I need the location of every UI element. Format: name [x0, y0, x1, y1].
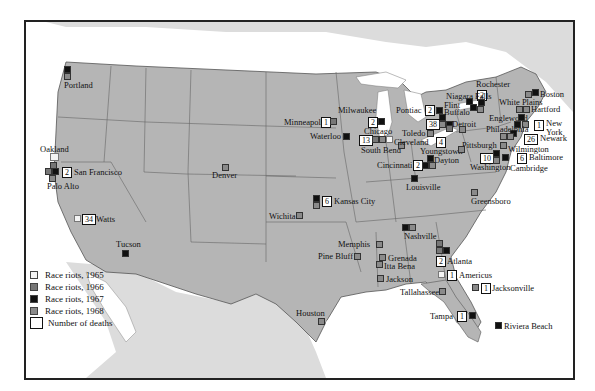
legend-item-1965: Race riots, 1965	[30, 269, 112, 281]
marker-englewood-1967[interactable]	[518, 114, 525, 121]
marker-kc-1968[interactable]	[313, 202, 320, 209]
marker-chicago-1968[interactable]	[379, 136, 386, 143]
marker-pine-bluff-1968[interactable]	[354, 253, 361, 260]
legend-label: Race riots, 1965	[45, 270, 104, 280]
deaths-kc: 6	[322, 196, 332, 207]
city-label-washington: Washington	[470, 163, 510, 172]
city-label-houston: Houston	[296, 309, 325, 318]
marker-jacksonville-1968[interactable]	[472, 284, 479, 291]
city-label-pontiac: Pontiac	[396, 106, 422, 115]
marker-portland-1968[interactable]	[64, 73, 71, 80]
city-label-wichita: Wichita	[269, 212, 296, 221]
deaths-new-york: 1	[534, 120, 544, 131]
marker-wichita-1968[interactable]	[296, 212, 303, 219]
deaths-detroit: 38	[426, 119, 440, 130]
marker-tucson-1967[interactable]	[122, 250, 129, 257]
marker-atlanta-1967[interactable]	[443, 247, 450, 254]
deaths-watts: 34	[82, 214, 96, 225]
legend-item-1967: Race riots, 1967	[30, 293, 112, 305]
deaths-jacksonville: 1	[481, 283, 491, 294]
city-label-tampa: Tampa	[430, 312, 453, 321]
marker-buffalo-1967[interactable]	[470, 104, 477, 111]
marker-chicago-1966[interactable]	[372, 136, 379, 143]
marker-riviera-beach-1967[interactable]	[495, 322, 502, 329]
marker-milwaukee-1967[interactable]	[378, 118, 385, 125]
marker-jackson-1968[interactable]	[377, 275, 384, 282]
marker-waterloo-1967[interactable]	[343, 133, 350, 140]
marker-atlanta-1966b[interactable]	[436, 247, 443, 254]
marker-pittsburgh-1968[interactable]	[458, 146, 465, 153]
marker-kc-1967[interactable]	[313, 195, 320, 202]
legend-label: Race riots, 1967	[45, 294, 104, 304]
deaths-sf: 2	[62, 167, 72, 178]
city-label-jackson: Jackson	[386, 275, 413, 284]
city-label-portland: Portland	[64, 81, 93, 90]
marker-houston-1968[interactable]	[318, 318, 325, 325]
city-label-louisville: Louisville	[406, 183, 440, 192]
marker-portland-1967[interactable]	[64, 66, 71, 73]
swatch-1966-icon	[30, 283, 38, 291]
marker-boston-1967[interactable]	[532, 89, 539, 96]
marker-detroit-1968[interactable]	[439, 121, 446, 128]
marker-grenada-1968[interactable]	[379, 254, 386, 261]
legend-item-deaths: Number of deaths	[30, 317, 112, 329]
marker-sf-1967[interactable]	[52, 168, 59, 175]
marker-philadelphia-1968b[interactable]	[507, 133, 514, 140]
marker-buffalo-1968[interactable]	[477, 106, 484, 113]
marker-white-plains-1968[interactable]	[516, 106, 523, 113]
deaths-tampa: 1	[457, 311, 467, 322]
city-label-buffalo: Buffalo	[444, 108, 470, 117]
legend-label: Number of deaths	[48, 318, 112, 328]
city-label-pine-bluff: Pine Bluff	[318, 252, 353, 261]
swatch-1968-icon	[30, 307, 38, 315]
deaths-box-icon	[30, 317, 43, 329]
marker-louisville-1967[interactable]	[411, 175, 418, 182]
city-label-americus: Americus	[459, 271, 492, 280]
city-label-kansas-city: Kansas City	[334, 197, 375, 206]
marker-minneapolis-1966[interactable]	[330, 118, 337, 125]
marker-chicago-1965[interactable]	[386, 136, 393, 143]
legend: Race riots, 1965 Race riots, 1966 Race r…	[30, 269, 112, 329]
city-label-riviera-beach: Riviera Beach	[504, 322, 552, 331]
legend-label: Race riots, 1966	[45, 282, 104, 292]
marker-memphis-1968[interactable]	[376, 241, 383, 248]
deaths-pontiac: 2	[425, 105, 435, 116]
city-label-hartford: Hartford	[531, 105, 560, 114]
marker-itta-bena-1968[interactable]	[376, 261, 383, 268]
marker-cincinnati-1968[interactable]	[429, 162, 436, 169]
map-frame: Race riots, 1965 Race riots, 1966 Race r…	[24, 20, 575, 380]
marker-atlanta-1966a[interactable]	[436, 240, 443, 247]
city-label-palo-alto: Palo Alto	[47, 182, 79, 191]
city-label-greensboro: Greensboro	[471, 197, 511, 206]
marker-tallahassee-1968[interactable]	[439, 288, 446, 295]
city-label-milwaukee: Milwaukee	[338, 106, 376, 115]
marker-hartford-1968[interactable]	[523, 106, 530, 113]
marker-philadelphia-1968a[interactable]	[500, 133, 507, 140]
marker-watts-1965[interactable]	[74, 215, 81, 222]
city-label-boston: Boston	[540, 90, 564, 99]
marker-oakland-1965[interactable]	[50, 153, 59, 161]
city-label-pittsburgh: Pittsburgh	[462, 141, 497, 150]
marker-nashville-1968[interactable]	[409, 224, 416, 231]
marker-americus-1965[interactable]	[438, 271, 445, 278]
marker-greensboro-1968[interactable]	[471, 189, 478, 196]
marker-toledo-1968[interactable]	[427, 130, 434, 137]
marker-dayton-1967[interactable]	[427, 155, 434, 162]
marker-baltimore-1967[interactable]	[502, 154, 509, 161]
city-label-tucson: Tucson	[116, 240, 141, 249]
marker-flint-1967[interactable]	[436, 107, 443, 114]
city-label-dayton: Dayton	[434, 156, 459, 165]
marker-washington-1967[interactable]	[493, 150, 500, 157]
marker-nashville-1967[interactable]	[402, 224, 409, 231]
marker-cincinnati-1967[interactable]	[422, 162, 429, 169]
marker-youngstown-1968[interactable]	[459, 126, 466, 133]
marker-cleveland-1966[interactable]	[446, 125, 453, 132]
city-label-baltimore: Baltimore	[529, 153, 563, 162]
city-label-denver: Denver	[212, 171, 237, 180]
legend-label: Race riots, 1968	[45, 306, 104, 316]
marker-tampa-1967[interactable]	[469, 312, 476, 319]
city-label-san-francisco: San Francisco	[74, 168, 122, 177]
marker-sf-1966[interactable]	[45, 168, 52, 175]
marker-wilmington-1968[interactable]	[500, 142, 507, 149]
city-label-cincinnati: Cincinnati	[377, 161, 412, 170]
